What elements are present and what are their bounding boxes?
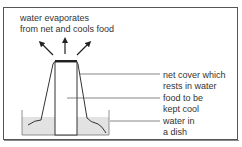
evaporation-caption-line2: from net and cools food xyxy=(20,24,114,35)
up-left-arrow-icon xyxy=(41,43,53,55)
evaporation-caption: water evaporates from net and cools food xyxy=(20,13,114,35)
label-food-line1: food to be xyxy=(163,93,203,104)
label-water-line1: water in xyxy=(163,116,195,127)
label-net-cover: net cover which rests in water xyxy=(163,70,226,92)
label-food-line2: kept cool xyxy=(163,104,203,115)
label-water-line2: a dish xyxy=(163,127,195,138)
evaporation-arrows xyxy=(41,40,89,55)
evaporation-caption-line1: water evaporates xyxy=(20,13,114,24)
label-water: water in a dish xyxy=(163,116,195,138)
up-right-arrow-icon xyxy=(77,43,89,55)
label-net-cover-line1: net cover which xyxy=(163,70,226,81)
label-food: food to be kept cool xyxy=(163,93,203,115)
label-net-cover-line2: rests in water xyxy=(163,81,226,92)
